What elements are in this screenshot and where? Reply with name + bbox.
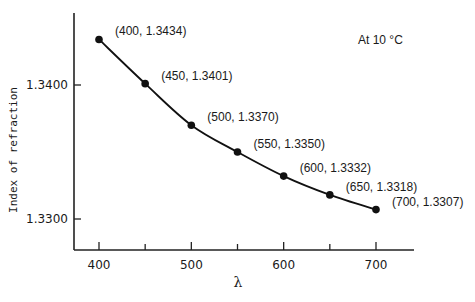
points-layer xyxy=(95,36,380,214)
data-label: (700, 1.3307) xyxy=(392,195,463,209)
x-tick-label: 400 xyxy=(88,258,111,272)
data-point xyxy=(141,80,149,88)
x-tick-label: 500 xyxy=(180,258,203,272)
x-tick-label: 700 xyxy=(365,258,388,272)
chart: 4005006007001.34001.3300 (400, 1.3434)(4… xyxy=(0,0,475,302)
curve-layer xyxy=(99,39,376,209)
data-label: (500, 1.3370) xyxy=(207,110,278,124)
data-label: (600, 1.3332) xyxy=(300,161,371,175)
data-point xyxy=(234,148,242,156)
data-label: (450, 1.3401) xyxy=(161,69,232,83)
x-axis-title: λ xyxy=(234,274,243,290)
series-line xyxy=(99,39,376,209)
data-point xyxy=(326,191,334,199)
data-label: (550, 1.3350) xyxy=(254,137,325,151)
labels-layer: (400, 1.3434)(450, 1.3401)(500, 1.3370)(… xyxy=(115,24,463,208)
data-point xyxy=(372,206,380,214)
data-point xyxy=(188,121,196,129)
data-label: (400, 1.3434) xyxy=(115,24,186,38)
data-point xyxy=(95,36,103,44)
y-tick-label: 1.3300 xyxy=(26,212,68,226)
temperature-annotation: At 10 °C xyxy=(358,33,403,47)
x-tick-label: 600 xyxy=(272,258,295,272)
y-tick-label: 1.3400 xyxy=(26,78,68,92)
data-point xyxy=(280,172,288,180)
data-label: (650, 1.3318) xyxy=(346,180,417,194)
y-axis-title: Index of refraction xyxy=(7,87,20,213)
